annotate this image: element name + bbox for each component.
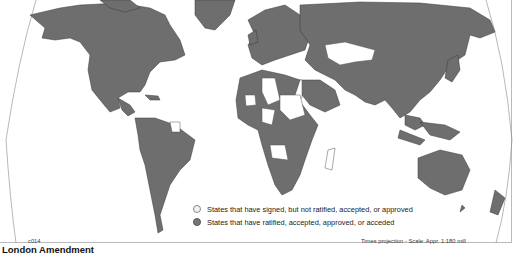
south-america — [135, 118, 195, 233]
projection-note: Times projection - Scale: Appr. 1:180 mi… — [361, 238, 466, 244]
oceania — [418, 150, 505, 215]
projection-edge-left — [6, 0, 36, 243]
north-america — [30, 0, 235, 116]
light-circle-icon — [193, 205, 201, 213]
map-legend: States that have signed, but not ratifie… — [193, 203, 413, 229]
map-title: London Amendment — [2, 244, 94, 255]
legend-label: States that have signed, but not ratifie… — [207, 205, 413, 214]
dark-circle-icon — [193, 218, 201, 226]
asia — [300, 2, 495, 145]
legend-item-ratified: States that have ratified, accepted, app… — [193, 216, 413, 228]
legend-label: States that have ratified, accepted, app… — [207, 218, 394, 227]
legend-item-signed: States that have signed, but not ratifie… — [193, 203, 413, 215]
